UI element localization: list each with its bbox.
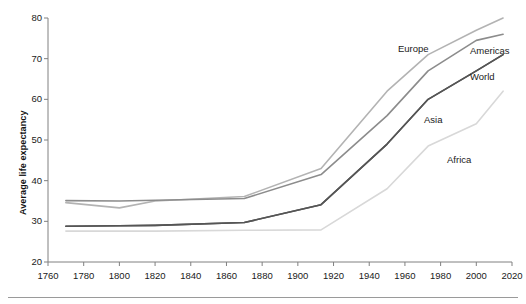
y-axis-tick-label: 20 xyxy=(14,256,42,267)
x-axis-tick-label: 1780 xyxy=(64,270,104,281)
x-axis-tick-label: 1860 xyxy=(206,270,246,281)
x-axis-tick-label: 1960 xyxy=(385,270,425,281)
y-axis-ticks xyxy=(44,18,48,262)
y-axis-tick-label: 80 xyxy=(14,12,42,23)
y-axis-tick-label: 30 xyxy=(14,215,42,226)
x-axis-ticks xyxy=(48,262,512,266)
series-line-africa xyxy=(66,91,503,231)
x-axis-tick-label: 1980 xyxy=(421,270,461,281)
x-axis-tick-label: 1800 xyxy=(99,270,139,281)
life-expectancy-chart: Average life expectancy 20304050607080 1… xyxy=(0,0,526,304)
bottom-divider xyxy=(8,297,518,298)
x-axis-tick-label: 1840 xyxy=(171,270,211,281)
y-axis-tick-label: 60 xyxy=(14,93,42,104)
x-axis-tick-label: 2000 xyxy=(456,270,496,281)
series-label-europe: Europe xyxy=(398,43,429,54)
series-label-world: World xyxy=(470,71,495,82)
series-label-asia: Asia xyxy=(424,114,442,125)
x-axis-tick-label: 1820 xyxy=(135,270,175,281)
x-axis-tick-label: 2020 xyxy=(492,270,526,281)
x-axis-tick-label: 1900 xyxy=(278,270,318,281)
plot-area xyxy=(0,0,526,304)
y-axis-tick-label: 50 xyxy=(14,134,42,145)
series-label-africa: Africa xyxy=(447,154,471,165)
x-axis-tick-label: 1880 xyxy=(242,270,282,281)
y-axis-tick-label: 40 xyxy=(14,175,42,186)
x-axis-tick-label: 1940 xyxy=(349,270,389,281)
series-label-americas: Americas xyxy=(470,45,510,56)
y-axis-tick-label: 70 xyxy=(14,53,42,64)
series-line-europe xyxy=(66,18,503,208)
x-axis-tick-label: 1760 xyxy=(28,270,68,281)
x-axis-tick-label: 1920 xyxy=(314,270,354,281)
